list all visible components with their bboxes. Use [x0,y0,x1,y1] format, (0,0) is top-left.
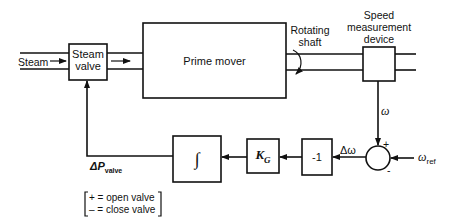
steam-valve-label: Steam valve [69,48,107,72]
valve-legend: + = open valve – = close valve [89,192,155,216]
legend-close-valve: – = close valve [89,204,155,216]
delta-p-valve-label: ΔPvalve [90,160,122,177]
rotating-shaft-line1: Rotating [280,24,340,36]
integrator-label: ∫ [173,149,221,169]
kg-subscript: G [264,155,271,165]
delta-omega-label: Δω [340,144,356,156]
plus-sign: + [383,138,389,150]
delta-p-subscript: valve [105,167,123,174]
steam-valve-line2: valve [69,60,107,72]
rotating-shaft-label: Rotating shaft [280,24,340,48]
governor-gain-label: KG [247,149,279,166]
steam-input-label: Steam [18,56,48,68]
speed-device-line2: measurement [344,21,414,33]
omega-ref-label: ωref [418,151,436,168]
speed-device-line1: Speed [344,9,414,21]
kg-symbol: K [255,147,264,162]
speed-device-line3: device [344,33,414,45]
prime-mover-label: Prime mover [143,55,286,67]
omega-label: ω [381,105,389,117]
delta-p-symbol: ΔP [90,160,105,172]
steam-valve-line1: Steam [69,48,107,60]
omega-ref-subscript: ref [426,157,435,166]
rotating-shaft-line2: shaft [280,36,340,48]
speed-measurement-label: Speed measurement device [344,9,414,45]
legend-open-valve: + = open valve [89,192,155,204]
minus-sign: - [387,164,391,176]
speed-measurement-block [363,47,395,81]
negative-gain-label: -1 [302,151,332,163]
